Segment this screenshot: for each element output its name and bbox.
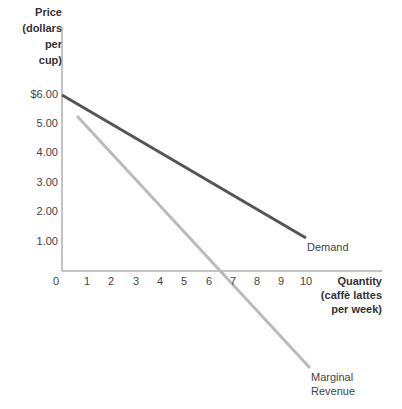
x-label-line: per week)	[321, 302, 382, 316]
x-tick: 2	[108, 275, 114, 287]
x-tick: 8	[254, 275, 260, 287]
x-tick: 1	[84, 275, 90, 287]
marginal-revenue-label: Marginal Revenue	[311, 370, 355, 398]
x-tick: 10	[300, 275, 312, 287]
x-tick: 5	[181, 275, 187, 287]
demand-line	[62, 95, 306, 238]
mr-label-line: Marginal	[311, 370, 355, 384]
x-label-line: Quantity	[321, 274, 382, 288]
x-tick: 6	[206, 275, 212, 287]
demand-label: Demand	[307, 240, 349, 254]
plot-area	[0, 0, 402, 409]
marginal-revenue-line	[77, 116, 310, 368]
x-tick: 4	[157, 275, 163, 287]
x-tick: 0	[53, 275, 59, 287]
x-tick: 3	[133, 275, 139, 287]
x-tick: 7	[230, 275, 236, 287]
mr-label-line: Revenue	[311, 384, 355, 398]
x-label-line: (caffè lattes	[321, 288, 382, 302]
x-axis-label: Quantity (caffè lattes per week)	[321, 274, 382, 316]
x-tick: 9	[278, 275, 284, 287]
